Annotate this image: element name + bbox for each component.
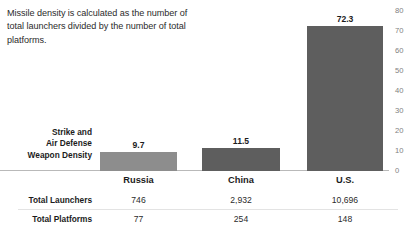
bar-us: 72.3 xyxy=(307,26,383,171)
y-tick-70: 70 xyxy=(395,26,413,35)
category-label-row: RussiaChinaU.S. xyxy=(0,172,389,190)
cell-launchers-china: 2,932 xyxy=(202,195,280,205)
y-tick-80: 80 xyxy=(395,6,413,15)
bar-rect-us xyxy=(307,26,383,171)
table-row: Total Platforms 77 254 148 xyxy=(0,210,417,228)
bar-rect-russia xyxy=(100,152,177,171)
y-tick-10: 10 xyxy=(395,146,413,155)
cell-launchers-russia: 746 xyxy=(100,195,177,205)
y-tick-0: 0 xyxy=(395,166,413,175)
missile-density-figure: Missile density is calculated as the num… xyxy=(0,0,417,230)
y-tick-40: 40 xyxy=(395,86,413,95)
cell-platforms-china: 254 xyxy=(202,214,280,224)
y-tick-60: 60 xyxy=(395,46,413,55)
row-label-launchers: Total Launchers xyxy=(0,195,92,205)
bar-value-russia: 9.7 xyxy=(100,140,177,150)
y-axis: 01020304050607080 xyxy=(389,0,417,171)
cell-launchers-us: 10,696 xyxy=(307,195,383,205)
y-tick-50: 50 xyxy=(395,66,413,75)
bar-china: 11.5 xyxy=(202,148,280,171)
bar-russia: 9.7 xyxy=(100,152,177,171)
bar-value-us: 72.3 xyxy=(307,14,383,24)
y-tick-20: 20 xyxy=(395,126,413,135)
bar-rect-china xyxy=(202,148,280,171)
category-label-us: U.S. xyxy=(307,175,383,185)
row-label-density: Strike andAir DefenseWeapon Density xyxy=(0,127,92,161)
cell-platforms-us: 148 xyxy=(307,214,383,224)
data-table: Total Launchers 746 2,932 10,696 Total P… xyxy=(0,191,417,230)
bar-value-china: 11.5 xyxy=(202,136,280,146)
row-label-platforms: Total Platforms xyxy=(0,214,92,224)
category-label-russia: Russia xyxy=(100,175,177,185)
y-tick-30: 30 xyxy=(395,106,413,115)
category-label-china: China xyxy=(202,175,280,185)
table-row: Total Launchers 746 2,932 10,696 xyxy=(0,191,417,209)
cell-platforms-russia: 77 xyxy=(100,214,177,224)
